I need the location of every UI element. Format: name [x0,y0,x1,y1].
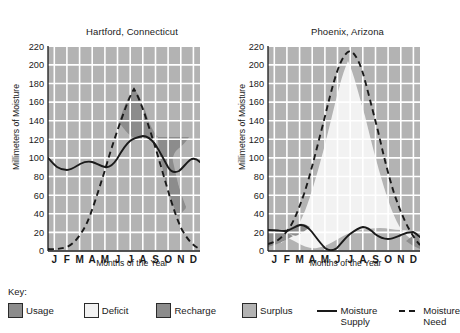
svg-text:100: 100 [29,153,44,163]
legend-item-deficit: Deficit [84,302,129,332]
y-tick-labels-phoenix: 0 20 40 60 80 100 120 140 160 180 200 22… [249,42,264,257]
solid-line-icon [317,303,337,318]
svg-text:40: 40 [34,209,44,219]
svg-text:80: 80 [34,172,44,182]
plot-area-hartford: 0 20 40 60 80 100 120 140 160 180 200 22… [0,36,228,266]
svg-text:160: 160 [249,97,264,107]
y-tick-labels-hartford: 0 20 40 60 80 100 120 140 160 180 200 22… [29,42,44,257]
surplus-swatch-icon [242,303,257,318]
legend-item-recharge: Recharge [156,302,216,332]
svg-text:0: 0 [259,246,264,256]
x-axis-label-phoenix: Months of the Year [224,258,457,268]
chart-legend: Key: Usage Deficit Recharge Surplus [0,286,447,333]
key-items-row: Usage Deficit Recharge Surplus [8,302,447,332]
svg-text:140: 140 [249,116,264,126]
svg-text:160: 160 [29,97,44,107]
svg-text:120: 120 [29,135,44,145]
plot-area-phoenix: 0 20 40 60 80 100 120 140 160 180 200 22… [224,36,447,266]
svg-text:20: 20 [34,228,44,238]
recharge-swatch-icon [156,303,171,318]
dashed-line-icon [399,303,419,318]
svg-text:200: 200 [29,60,44,70]
x-axis-label-hartford: Months of the Year [0,258,246,268]
legend-label-recharge: Recharge [174,302,216,316]
legend-item-surplus: Surplus [242,302,293,332]
key-title: Key: [8,286,27,297]
svg-text:40: 40 [254,209,264,219]
svg-text:100: 100 [249,153,264,163]
svg-text:120: 120 [249,135,264,145]
legend-item-moisture-supply: Moisture Supply [317,302,378,332]
svg-text:220: 220 [249,42,264,52]
chart-panel-phoenix: Phoenix, Arizona Millimeters of Moisture [224,14,447,282]
svg-text:180: 180 [29,79,44,89]
chart-panel-hartford: Hartford, Connecticut Millimeters of Moi… [0,14,228,282]
usage-swatch-icon [8,303,23,318]
deficit-swatch-icon [84,303,99,318]
svg-text:60: 60 [34,191,44,201]
legend-label-usage: Usage [26,302,54,316]
svg-text:20: 20 [254,228,264,238]
legend-label-deficit: Deficit [102,302,129,316]
legend-label-moisture-supply: Moisture Supply [341,302,378,327]
svg-text:200: 200 [249,60,264,70]
svg-text:140: 140 [29,116,44,126]
svg-text:220: 220 [29,42,44,52]
legend-label-surplus: Surplus [260,302,293,316]
legend-item-moisture-need: Moisture Need [399,302,460,332]
legend-item-usage: Usage [8,302,54,332]
svg-text:0: 0 [39,246,44,256]
legend-label-moisture-need: Moisture Need [423,302,460,327]
svg-text:60: 60 [254,191,264,201]
svg-text:180: 180 [249,79,264,89]
svg-text:80: 80 [254,172,264,182]
